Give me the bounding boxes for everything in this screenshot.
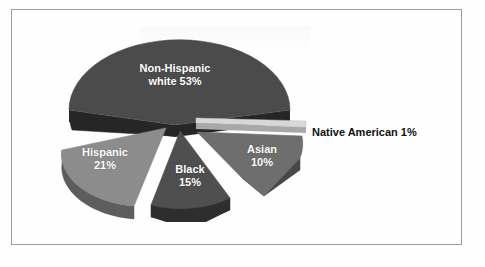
pie-label-black: Black 15% xyxy=(160,163,220,188)
pie-label-non-hispanic-white: Non-Hispanic white 53% xyxy=(120,62,230,87)
chart-plot-area: Non-Hispanic white 53% Hispanic 21% Blac… xyxy=(0,0,485,267)
pie-chart-figure: Non-Hispanic white 53% Hispanic 21% Blac… xyxy=(0,0,485,267)
pie-label-native-american: Native American 1% xyxy=(312,126,417,139)
pie-label-hispanic: Hispanic 21% xyxy=(69,146,141,171)
pie-label-asian: Asian 10% xyxy=(233,143,291,168)
